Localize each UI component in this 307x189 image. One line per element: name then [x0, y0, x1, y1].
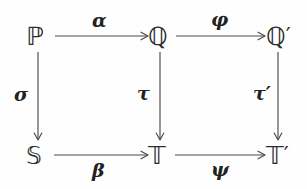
- node-top-left: ℙ: [26, 24, 44, 49]
- arrow-label-alpha: α: [92, 11, 107, 30]
- arrow-sigma: [34, 52, 42, 140]
- arrow-label-sigma: σ: [14, 85, 28, 104]
- arrow-alpha: [55, 32, 148, 40]
- arrow-label-tau: τ: [137, 84, 150, 103]
- arrow-label-beta: β: [92, 161, 105, 180]
- node-top-middle: ℚ: [148, 24, 168, 49]
- node-bottom-right: 𝕋′: [266, 143, 289, 168]
- commutative-diagram: ℙ ℚ ℚ′ 𝕊 𝕋 𝕋′ α φ σ τ τ′ β ψ: [0, 0, 307, 189]
- arrow-tau: [156, 52, 164, 140]
- arrow-tau-prime: [274, 52, 282, 140]
- arrow-label-phi: φ: [211, 10, 228, 29]
- arrow-beta: [54, 151, 148, 159]
- arrow-phi: [176, 32, 265, 40]
- node-top-right: ℚ′: [266, 24, 291, 49]
- arrow-label-psi: ψ: [211, 160, 229, 179]
- node-bottom-middle: 𝕋: [148, 143, 166, 168]
- node-bottom-left: 𝕊: [26, 143, 42, 168]
- arrow-label-tau-prime: τ′: [253, 84, 271, 103]
